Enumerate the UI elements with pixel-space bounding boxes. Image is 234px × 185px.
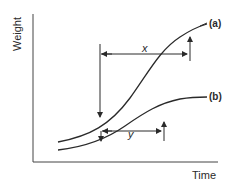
growth-curve-diagram: Weight Time (a) (b) x y: [0, 0, 234, 185]
interval-y-label: y: [128, 128, 134, 140]
curve-a-label: (a): [209, 18, 221, 29]
y-axis-label: Weight: [11, 14, 23, 54]
curve-b: [58, 97, 207, 150]
diagram-canvas: [0, 0, 234, 185]
curve-b-label: (b): [209, 91, 222, 102]
curve-a: [58, 24, 207, 142]
x-axis-label: Time: [192, 169, 216, 181]
interval-x-label: x: [142, 42, 148, 54]
